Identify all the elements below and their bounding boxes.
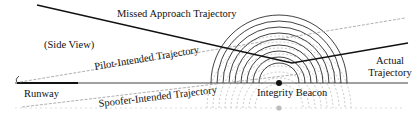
actual-trajectory-label-line1: Actual — [376, 55, 404, 66]
side-view-label: (Side View) — [44, 39, 95, 51]
pilot-intended-trajectory-line — [20, 18, 405, 82]
actual-trajectory-label-line2: Trajectory — [368, 67, 412, 78]
mirrored-beacon-icon — [276, 105, 281, 110]
runway-label: Runway — [24, 88, 60, 99]
missed-approach-label: Missed Approach Trajectory — [117, 8, 237, 19]
diagram-canvas: Missed Approach Trajectory (Side View) P… — [0, 0, 419, 116]
signal-arc — [229, 33, 329, 83]
spoofer-intended-label: Spoofer-Intended Trajectory — [98, 84, 218, 109]
signal-arc — [247, 51, 311, 83]
spoofing-side-view-diagram: Missed Approach Trajectory (Side View) P… — [0, 0, 419, 116]
pilot-intended-label: Pilot-Intended Trajectory — [94, 44, 201, 72]
integrity-beacon-icon — [276, 80, 282, 86]
integrity-beacon-label: Integrity Beacon — [257, 87, 328, 98]
reflected-signal-arc — [213, 42, 345, 108]
